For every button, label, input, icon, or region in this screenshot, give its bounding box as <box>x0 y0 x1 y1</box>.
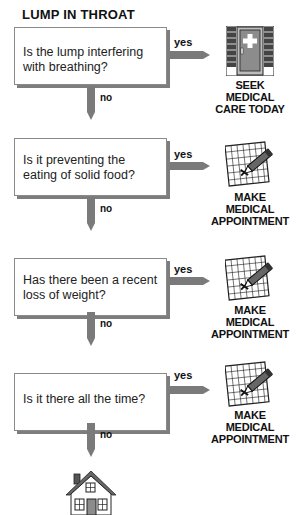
yes-arrow-icon <box>170 161 210 171</box>
no-label: no <box>100 429 112 440</box>
calendar-pencil-icon <box>225 138 275 188</box>
question-text: Is it preventing the eating of solid foo… <box>23 153 160 183</box>
no-arrow-icon <box>86 86 96 120</box>
calendar-pencil-icon <box>225 252 275 302</box>
question-box-3: Has there been a recent loss of weight? <box>14 258 167 316</box>
yes-arrow-icon <box>170 50 210 60</box>
outcome-line: MEDICAL <box>205 203 295 215</box>
question-text: Is the lump interfering with breathing? <box>23 45 160 75</box>
outcome-line: MEDICAL <box>205 91 295 103</box>
yes-arrow-icon <box>170 276 210 286</box>
house-icon <box>64 470 118 515</box>
yes-label: yes <box>174 369 192 381</box>
outcome-line: APPOINTMENT <box>205 433 295 445</box>
yes-arrow-icon <box>170 385 210 395</box>
outcome-line: MEDICAL <box>205 421 295 433</box>
yes-label: yes <box>174 36 192 48</box>
outcome-label: SEEK MEDICAL CARE TODAY <box>205 79 295 115</box>
no-label: no <box>100 92 112 103</box>
outcome-line: APPOINTMENT <box>205 215 295 227</box>
no-label: no <box>100 318 112 329</box>
question-box-1: Is the lump interfering with breathing? <box>14 27 167 85</box>
no-arrow-icon <box>86 312 96 346</box>
outcome-line: MEDICAL <box>205 316 295 328</box>
outcome-line: APPOINTMENT <box>205 328 295 340</box>
no-arrow-icon <box>86 197 96 231</box>
no-label: no <box>100 203 112 214</box>
chart-title: LUMP IN THROAT <box>22 7 135 22</box>
no-arrow-icon <box>86 423 96 457</box>
question-text: Is it there all the time? <box>23 392 160 407</box>
yes-label: yes <box>174 263 192 275</box>
calendar-pencil-icon <box>225 358 275 408</box>
outcome-line: SEEK <box>205 79 295 91</box>
outcome-line: MAKE <box>205 409 295 421</box>
yes-label: yes <box>174 148 192 160</box>
hospital-door-icon <box>226 26 274 76</box>
outcome-line: CARE TODAY <box>205 103 295 115</box>
outcome-line: MAKE <box>205 304 295 316</box>
outcome-line: MAKE <box>205 191 295 203</box>
outcome-label: MAKE MEDICAL APPOINTMENT <box>205 304 295 340</box>
question-text: Has there been a recent loss of weight? <box>23 273 160 303</box>
outcome-label: MAKE MEDICAL APPOINTMENT <box>205 191 295 227</box>
outcome-label: MAKE MEDICAL APPOINTMENT <box>205 409 295 445</box>
question-box-2: Is it preventing the eating of solid foo… <box>14 138 167 196</box>
